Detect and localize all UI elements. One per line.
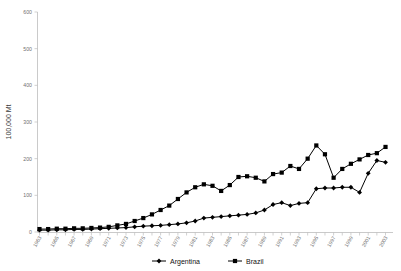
data-point-marker — [366, 153, 370, 157]
x-tick-label: 1991 — [274, 235, 285, 248]
data-point-marker — [254, 176, 258, 180]
x-tick-label: 1983 — [205, 235, 216, 248]
line-chart: 0100200300400500600 19631965196719691971… — [0, 0, 401, 271]
data-point-marker — [46, 227, 50, 231]
data-point-marker — [236, 175, 240, 179]
data-point-marker — [210, 184, 214, 188]
data-point-marker — [202, 182, 206, 186]
x-tick-label: 1975 — [135, 235, 146, 248]
x-tick-label: 1997 — [326, 235, 337, 248]
data-point-marker — [63, 227, 67, 231]
data-point-marker — [280, 171, 284, 175]
data-point-marker — [158, 223, 163, 228]
data-point-marker — [184, 190, 188, 194]
data-point-marker — [167, 222, 172, 227]
data-point-marker — [228, 183, 232, 187]
data-point-marker — [210, 215, 215, 220]
x-tick-label: 1999 — [343, 235, 354, 248]
data-point-marker — [297, 167, 301, 171]
y-tick-label: 300 — [23, 119, 32, 125]
data-point-marker — [37, 227, 41, 231]
data-point-marker — [159, 208, 163, 212]
data-point-marker — [184, 220, 189, 225]
data-point-marker — [201, 216, 206, 221]
legend-marker-brazil — [233, 259, 237, 263]
legend-label-argentina[interactable]: Argentina — [170, 258, 200, 266]
y-tick-label: 600 — [23, 9, 32, 15]
data-point-marker — [262, 179, 266, 183]
x-tick-label: 1987 — [239, 235, 250, 248]
x-tick-label: 1989 — [257, 235, 268, 248]
x-tick-label: 1973 — [118, 235, 129, 248]
data-point-marker — [357, 157, 361, 161]
y-tick-label: 0 — [29, 229, 32, 235]
x-tick-label: 1967 — [66, 235, 77, 248]
data-point-marker — [245, 212, 250, 217]
x-tick-label: 1979 — [170, 235, 181, 248]
data-point-marker — [107, 225, 111, 229]
x-axis: 1963196519671969197119731975197719791981… — [32, 233, 393, 248]
x-tick-label: 1965 — [49, 235, 60, 248]
data-point-marker — [306, 157, 310, 161]
data-point-marker — [72, 226, 76, 230]
chart-container: 0100200300400500600 19631965196719691971… — [0, 0, 401, 271]
data-point-marker — [124, 222, 128, 226]
x-tick-label: 1969 — [83, 235, 94, 248]
data-point-marker — [305, 200, 310, 205]
data-point-marker — [271, 172, 275, 176]
y-tick-label: 500 — [23, 46, 32, 52]
data-point-marker — [89, 226, 93, 230]
data-point-marker — [176, 222, 181, 227]
x-tick-label: 1993 — [291, 235, 302, 248]
y-tick-label: 400 — [23, 82, 32, 88]
data-point-marker — [357, 190, 362, 195]
data-point-marker — [150, 212, 154, 216]
data-point-marker — [167, 204, 171, 208]
data-point-marker — [150, 223, 155, 228]
data-point-marker — [349, 185, 354, 190]
data-point-marker — [253, 211, 258, 216]
data-point-marker — [219, 214, 224, 219]
legend-label-brazil[interactable]: Brazil — [246, 258, 264, 265]
x-tick-label: 1971 — [101, 235, 112, 248]
data-point-marker — [219, 189, 223, 193]
data-point-marker — [55, 227, 59, 231]
data-point-marker — [375, 151, 379, 155]
data-point-marker — [193, 185, 197, 189]
data-point-marker — [323, 152, 327, 156]
y-tick-label: 200 — [23, 156, 32, 162]
x-tick-label: 1995 — [308, 235, 319, 248]
data-point-marker — [331, 186, 336, 191]
x-tick-label: 1981 — [187, 235, 198, 248]
data-point-marker — [288, 164, 292, 168]
x-tick-group: 1963196519671969197119731975197719791981… — [32, 233, 389, 248]
y-axis-title: 100,000 Mt — [5, 104, 12, 139]
x-tick-label: 2001 — [360, 235, 371, 248]
data-point-marker — [132, 224, 137, 229]
data-point-marker — [271, 202, 276, 207]
data-point-marker — [340, 185, 345, 190]
data-point-marker — [314, 186, 319, 191]
data-point-marker — [279, 200, 284, 205]
x-tick-label: 1977 — [153, 235, 164, 248]
data-point-marker — [340, 167, 344, 171]
data-point-marker — [332, 176, 336, 180]
y-tick-group: 0100200300400500600 — [23, 9, 37, 235]
data-point-marker — [288, 203, 293, 208]
x-tick-label: 2003 — [378, 235, 389, 248]
x-tick-label: 1985 — [222, 235, 233, 248]
data-point-marker — [176, 197, 180, 201]
data-point-marker — [349, 162, 353, 166]
series-argentina — [37, 158, 388, 232]
data-point-marker — [245, 174, 249, 178]
data-point-marker — [81, 226, 85, 230]
series-group — [37, 143, 388, 232]
data-point-marker — [314, 143, 318, 147]
legend-marker-argentina — [157, 259, 162, 264]
data-point-marker — [383, 160, 388, 165]
data-point-marker — [141, 224, 146, 229]
x-tick-label: 1963 — [32, 235, 43, 248]
data-point-marker — [115, 223, 119, 227]
data-point-marker — [98, 226, 102, 230]
data-point-marker — [323, 186, 328, 191]
